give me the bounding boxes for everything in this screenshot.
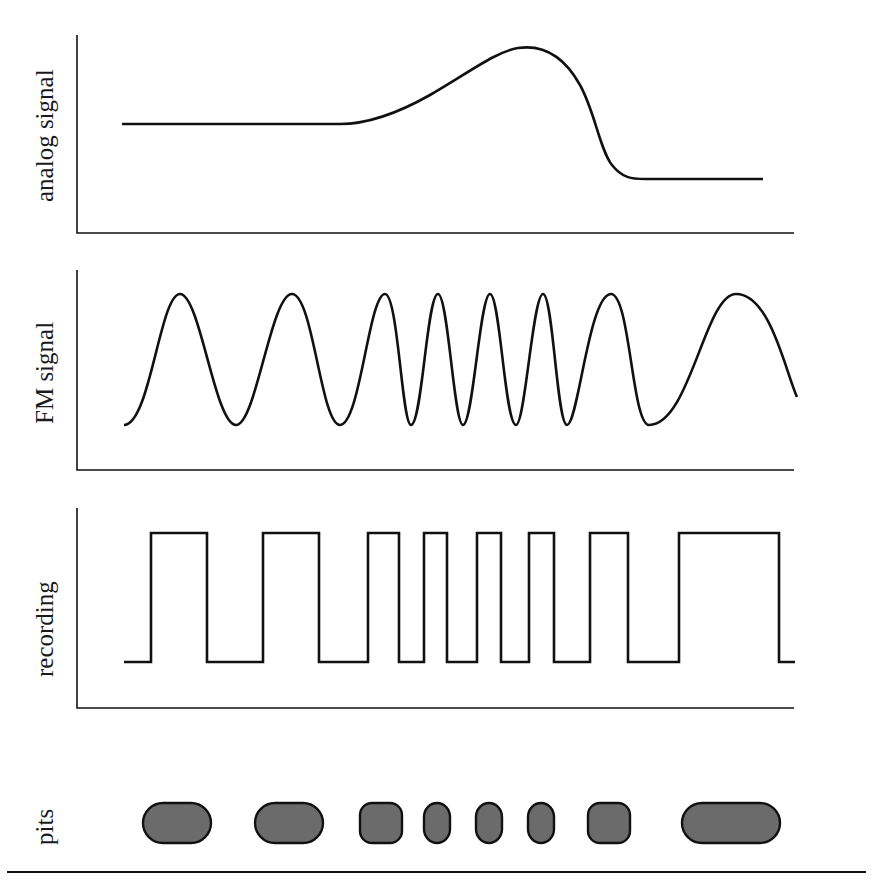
fm-signal-curve — [124, 294, 797, 425]
pit — [360, 803, 402, 843]
pit — [476, 803, 502, 843]
analog-panel — [77, 35, 794, 233]
pit — [143, 803, 211, 843]
recording-square-wave — [124, 533, 795, 662]
fm-axes — [77, 270, 794, 470]
pit — [255, 803, 323, 843]
analog-axes — [77, 35, 794, 233]
pit — [424, 803, 450, 843]
recording-axes — [77, 508, 794, 708]
signal-diagram — [0, 0, 874, 881]
pits-panel — [143, 803, 780, 843]
pit — [682, 803, 780, 843]
pit — [588, 803, 630, 843]
recording-panel — [77, 508, 795, 708]
analog-signal-curve — [122, 47, 763, 179]
fm-panel — [77, 270, 797, 470]
pit — [528, 803, 554, 843]
